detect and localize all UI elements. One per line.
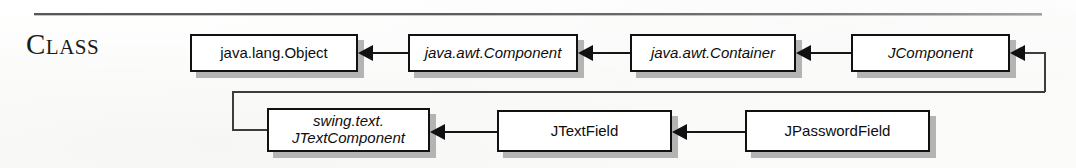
class-node-label: swing.text. JTextComponent [288, 113, 409, 147]
edge-jtextcomponent-to-jcomponent-seg-up [232, 91, 234, 130]
arrowhead-object [358, 45, 373, 61]
class-node-label: JPasswordField [781, 123, 895, 140]
edge-jtextcomponent-to-jcomponent-seg-across [232, 91, 1045, 93]
class-node-jcomponent[interactable]: JComponent [851, 34, 1010, 72]
class-node-jtextfield[interactable]: JTextField [497, 110, 672, 152]
class-node-java-lang-object[interactable]: java.lang.Object [190, 34, 358, 72]
class-node-label: java.lang.Object [216, 45, 332, 62]
section-label-initial: C [26, 28, 46, 60]
class-node-label: JTextField [547, 123, 623, 140]
class-node-label: java.awt.Container [647, 45, 779, 62]
class-node-jpasswordfield[interactable]: JPasswordField [745, 110, 930, 152]
class-node-java-awt-container[interactable]: java.awt.Container [630, 34, 796, 72]
class-node-jtextcomponent[interactable]: swing.text. JTextComponent [267, 108, 430, 152]
edge-jtextcomponent-to-jcomponent-seg-down [1044, 52, 1046, 92]
arrowhead-jtextcomponent [430, 124, 445, 140]
class-node-java-awt-component[interactable]: java.awt.Component [408, 34, 578, 72]
class-node-label: JComponent [884, 45, 977, 62]
arrowhead-jtextfield [672, 124, 687, 140]
arrowhead-component [578, 45, 593, 61]
section-label-rest: LASS [46, 35, 99, 59]
section-label: CLASS [26, 30, 99, 59]
diagram-page: CLASS java.lang.Object java.awt.Componen… [0, 0, 1076, 168]
edge-jtextcomponent-to-jcomponent-seg-enter [232, 129, 269, 131]
header-rule-shadow [34, 15, 1042, 16]
class-node-label: java.awt.Component [421, 45, 566, 62]
arrowhead-jcomponent [1010, 45, 1025, 61]
arrowhead-container [796, 45, 811, 61]
